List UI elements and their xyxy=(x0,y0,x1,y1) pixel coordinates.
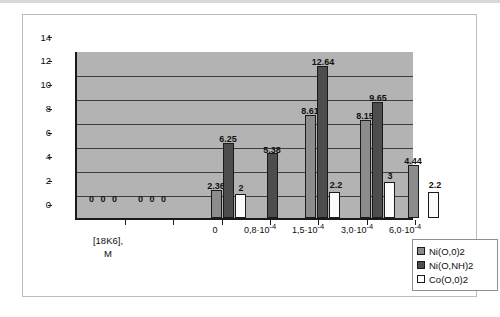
x-tick-mark xyxy=(125,220,126,225)
chart-page: 14 12 10 8 6 4 2 0 0 xyxy=(0,0,500,317)
legend-label: Ni(O,0)2 xyxy=(429,246,465,257)
x-tick-label-base: 0 xyxy=(212,225,217,235)
x-tick-label-15: 1,5·10-4 xyxy=(280,225,336,235)
y-tick-mark xyxy=(48,37,52,38)
plot-area: 0 0 0 0 0 0 2.36 6.25 2 5.38 8.61 12.64 … xyxy=(75,52,413,220)
figure-frame: 14 12 10 8 6 4 2 0 0 xyxy=(22,14,477,297)
legend-swatch-icon xyxy=(417,275,425,283)
legend-item-ni-o-0-2[interactable]: Ni(O,0)2 xyxy=(417,244,492,258)
x-tick-label-exponent: -4 xyxy=(317,222,324,231)
y-tick-mark xyxy=(48,181,52,182)
y-tick-label: 14 xyxy=(27,33,51,43)
legend-swatch-icon xyxy=(417,261,425,269)
legend-item-ni-o-nh-2[interactable]: Ni(O,NH)2 xyxy=(417,258,492,272)
x-axis-title: [18K6], M xyxy=(75,234,141,260)
legend-item-co-o-0-2[interactable]: Co(O,0)2 xyxy=(417,272,492,286)
legend-label: Ni(O,NH)2 xyxy=(429,260,473,271)
y-tick-mark xyxy=(48,133,52,134)
scan-artifact xyxy=(0,0,500,3)
x-axis-title-line1: [18K6], xyxy=(75,234,141,247)
x-tick-label-exponent: -4 xyxy=(269,222,276,231)
bar-value-label: 2.2 xyxy=(424,180,446,190)
x-tick-label-base: 3,0·10 xyxy=(341,225,367,235)
x-tick-label-exponent: -4 xyxy=(366,222,373,231)
y-tick-mark xyxy=(48,157,52,158)
y-tick-mark xyxy=(48,85,52,86)
legend: Ni(O,0)2 Ni(O,NH)2 Co(O,0)2 xyxy=(412,239,498,291)
legend-swatch-icon xyxy=(417,247,425,255)
x-tick-label-base: 6,0·10 xyxy=(389,225,415,235)
y-tick-mark xyxy=(48,109,52,110)
x-axis-title-line2: M xyxy=(75,247,141,260)
y-tick-mark xyxy=(48,61,52,62)
x-tick-label-exponent: -4 xyxy=(414,222,421,231)
x-tick-label-base: 0,8·10 xyxy=(244,225,270,235)
x-tick-label-0: 0 xyxy=(200,225,230,235)
x-tick-label-base: 1,5·10 xyxy=(292,225,318,235)
y-tick-mark xyxy=(48,205,52,206)
legend-label: Co(O,0)2 xyxy=(429,274,468,285)
x-tick-label-60: 6,0·10-4 xyxy=(377,225,433,235)
x-tick-mark xyxy=(173,220,174,225)
bar-co-o-0-2 xyxy=(428,192,439,218)
x-axis-ticks xyxy=(77,52,413,218)
